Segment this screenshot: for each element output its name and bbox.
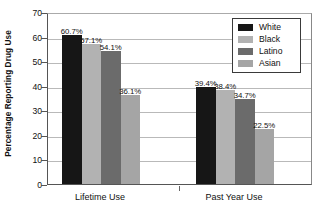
- x-axis-group-label: Past Year Use: [205, 192, 262, 202]
- x-axis-group-label: Lifetime Use: [75, 192, 125, 202]
- legend-swatch: [238, 36, 253, 43]
- bar-value-label: 22.5%: [253, 121, 275, 130]
- bar-value-label: 34.7%: [234, 91, 256, 100]
- legend-swatch: [238, 24, 253, 31]
- bar: [101, 51, 121, 184]
- bar-chart: Percentage Reporting Drug Use 0102030405…: [0, 0, 323, 216]
- legend-label: Latino: [259, 47, 282, 56]
- bar: [216, 90, 236, 184]
- y-axis-tick-label: 30: [16, 106, 42, 116]
- legend-item: Black: [233, 33, 300, 45]
- legend-item: Asian: [233, 57, 300, 69]
- y-axis-tick-label: 20: [16, 131, 42, 141]
- y-axis-tick-label: 60: [16, 33, 42, 43]
- legend-swatch: [238, 48, 253, 55]
- bar: [235, 99, 255, 184]
- bar-value-label: 38.4%: [214, 82, 236, 91]
- bar: [62, 35, 82, 184]
- bar: [196, 87, 216, 184]
- legend-swatch: [238, 60, 253, 67]
- legend-item: Latino: [233, 45, 300, 57]
- y-axis-tick-label: 0: [16, 180, 42, 190]
- y-axis-tick-label: 40: [16, 82, 42, 92]
- y-axis-tick-mark: [41, 185, 47, 186]
- legend-label: Black: [259, 35, 280, 44]
- bar: [121, 95, 141, 184]
- y-axis-title: Percentage Reporting Drug Use: [0, 0, 16, 186]
- y-axis-tick-label: 70: [16, 8, 42, 18]
- y-axis-tick-label: 10: [16, 155, 42, 165]
- bar-value-label: 36.1%: [119, 87, 141, 96]
- y-axis-title-text: Percentage Reporting Drug Use: [4, 30, 13, 157]
- x-axis-mid-tick: [179, 186, 180, 191]
- bar: [82, 44, 102, 184]
- legend-label: Asian: [259, 59, 281, 68]
- legend-item: White: [233, 21, 300, 33]
- legend-label: White: [259, 23, 281, 32]
- bar: [255, 129, 275, 184]
- bar-value-label: 60.7%: [61, 27, 83, 36]
- legend: WhiteBlackLatinoAsian: [232, 18, 301, 73]
- bar-value-label: 54.1%: [100, 43, 122, 52]
- y-axis-tick-label: 50: [16, 57, 42, 67]
